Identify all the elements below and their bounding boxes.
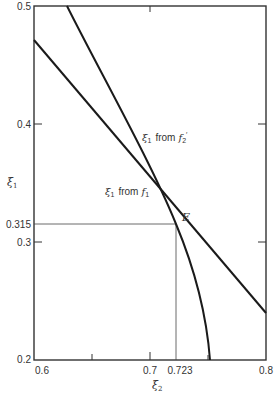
y-axis-label: ξ1 [7,176,18,190]
y-tick-label-04: 0.4 [17,119,31,130]
x-tick-label-08: 0.8 [259,365,273,376]
x-ticks [92,352,208,360]
x-tick-label-06: 0.6 [35,365,49,376]
y-tick-label-0315: 0.315 [6,219,31,230]
point-e-label: E [181,211,190,224]
series-f2prime-curve [67,6,210,360]
series-f1-line [34,40,266,313]
label-f2prime: ξ1fromf2′ [142,131,188,144]
y-tick-label-05: 0.5 [17,1,31,12]
y-tick-label-02: 0.2 [17,354,31,365]
right-ticks [258,124,266,242]
chart: E ξ1fromf2′ ξ1fromf1 0.5 0.4 0.315 0.3 0… [0,0,278,396]
x-axis-label: ξ2 [152,379,163,393]
x-tick-label-0723: 0.723 [167,365,192,376]
label-f1: ξ1fromf1 [105,186,149,198]
plot-frame [34,6,266,360]
x-tick-label-07: 0.7 [143,365,157,376]
y-tick-label-03: 0.3 [17,237,31,248]
